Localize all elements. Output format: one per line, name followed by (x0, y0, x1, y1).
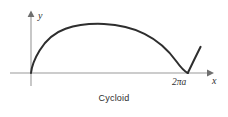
figure-caption: Cycloid (0, 93, 228, 103)
cycloid-arch-path (31, 24, 188, 73)
y-axis-label: y (37, 10, 43, 21)
cycloid-next-arch-path (188, 47, 201, 73)
x-tick-label-2pia: 2πa (172, 77, 187, 87)
y-axis-arrowhead (28, 11, 35, 18)
x-axis-label: x (211, 75, 217, 86)
cycloid-figure: y x 2πa Cycloid (0, 0, 228, 117)
